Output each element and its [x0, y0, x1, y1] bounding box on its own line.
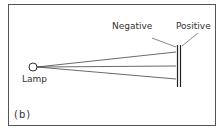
ray-top: [37, 52, 176, 67]
lamp-label: Lamp: [22, 75, 47, 84]
diagram-canvas: [0, 0, 222, 131]
panel-label: (b): [14, 110, 31, 120]
negative-leader-line: [152, 38, 176, 47]
ray-bottom: [37, 67, 176, 79]
positive-leader-line: [182, 33, 198, 46]
lamp-icon: [29, 63, 37, 71]
light-rays: [37, 52, 176, 79]
positive-label: Positive: [176, 22, 211, 31]
ray-middle: [37, 66, 176, 67]
negative-label: Negative: [112, 22, 152, 31]
